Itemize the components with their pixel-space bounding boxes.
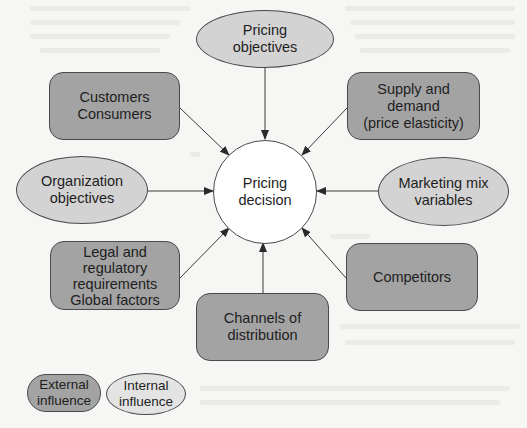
arrow-customers [180, 108, 229, 155]
node-marketing-mix: Marketing mix variables [378, 157, 509, 226]
node-label: Competitors [373, 269, 451, 286]
legend-label: Internal influence [119, 378, 173, 410]
node-label: Customers Consumers [77, 89, 151, 123]
node-customers: Customers Consumers [49, 72, 180, 140]
legend-label: External influence [37, 377, 91, 409]
node-supply-demand: Supply and demand (price elasticity) [347, 72, 480, 140]
node-label: Channels of distribution [224, 310, 301, 344]
node-pricing-objectives: Pricing objectives [196, 10, 334, 68]
node-pricing-decision: Pricing decision [213, 140, 317, 244]
arrow-competitors [302, 228, 346, 278]
legend-external-influence: External influence [27, 374, 101, 412]
node-label: Marketing mix variables [398, 175, 488, 209]
node-label: Supply and demand (price elasticity) [363, 81, 464, 132]
node-label: Pricing decision [238, 175, 291, 209]
node-channels-distribution: Channels of distribution [196, 293, 329, 361]
node-label: Organization objectives [41, 173, 123, 207]
node-label: Pricing objectives [233, 22, 297, 56]
node-organization-objectives: Organization objectives [16, 156, 148, 224]
arrow-supply-demand [302, 108, 347, 155]
legend-internal-influence: Internal influence [106, 373, 186, 415]
node-competitors: Competitors [346, 243, 478, 311]
node-legal-regulatory: Legal and regulatory requirements Global… [50, 241, 180, 310]
arrow-legal [180, 228, 229, 278]
node-label: Legal and regulatory requirements Global… [70, 244, 159, 308]
